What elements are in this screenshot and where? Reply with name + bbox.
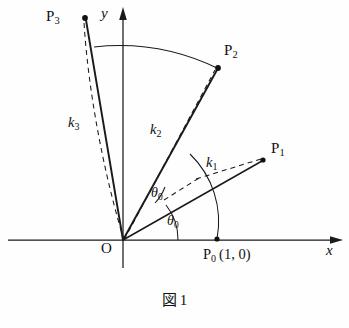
y-axis-label: y bbox=[101, 6, 108, 21]
figure-container: P3 P2 P1 P0(1, 0) y x O k3 k2 k1 θ0 θ0 図… bbox=[0, 0, 349, 328]
segment-label-k3-sub: 3 bbox=[74, 121, 79, 132]
figure-caption: 図1 bbox=[0, 288, 349, 309]
radius-O-P3 bbox=[86, 20, 123, 240]
segment-label-k1-sub: 1 bbox=[212, 161, 217, 172]
arc-group bbox=[94, 46, 219, 240]
figure-caption-symbol: 図 bbox=[162, 291, 180, 309]
point-marker-P3 bbox=[82, 15, 88, 21]
figure-caption-number: 1 bbox=[180, 292, 188, 308]
angle-label-theta0-upper-text: θ bbox=[151, 185, 158, 200]
chord-k1-guide bbox=[164, 178, 199, 200]
point-label-P2: P2 bbox=[224, 43, 238, 60]
point-label-P0-sub: 0 bbox=[211, 253, 216, 264]
point-label-P0-text: P bbox=[203, 246, 211, 262]
angle-label-theta0-lower: θ0 bbox=[167, 214, 179, 230]
point-marker-P2 bbox=[215, 65, 221, 71]
point-label-P0-coords: (1, 0) bbox=[219, 246, 250, 262]
point-label-P2-sub: 2 bbox=[233, 49, 238, 60]
segment-label-k3: k3 bbox=[68, 115, 79, 132]
arc-p3-to-p2 bbox=[94, 46, 219, 69]
point-label-P3-text: P bbox=[46, 8, 55, 24]
origin-label: O bbox=[101, 241, 112, 256]
point-label-P2-text: P bbox=[224, 42, 233, 58]
point-label-P1-sub: 1 bbox=[280, 147, 285, 158]
point-label-P3-sub: 3 bbox=[55, 15, 60, 26]
angle-label-theta0-upper: θ0 bbox=[151, 186, 163, 202]
segment-label-k2-sub: 2 bbox=[156, 128, 161, 139]
point-marker-P0 bbox=[214, 236, 219, 241]
x-axis-label: x bbox=[326, 243, 333, 258]
point-marker-group bbox=[82, 15, 266, 242]
segment-label-k2: k2 bbox=[150, 122, 161, 139]
point-label-P1-text: P bbox=[271, 140, 280, 156]
angle-label-theta0-upper-sub: 0 bbox=[158, 192, 163, 202]
figure-diagram bbox=[0, 0, 349, 328]
point-label-P3: P3 bbox=[46, 9, 60, 26]
angle-label-theta0-lower-text: θ bbox=[167, 213, 174, 228]
y-axis-arrowhead bbox=[119, 7, 127, 20]
point-label-P1: P1 bbox=[271, 141, 285, 158]
point-label-P0: P0(1, 0) bbox=[203, 247, 251, 264]
segment-label-k1: k1 bbox=[206, 155, 217, 172]
angle-label-theta0-lower-sub: 0 bbox=[174, 220, 179, 230]
point-marker-P1 bbox=[260, 157, 265, 162]
